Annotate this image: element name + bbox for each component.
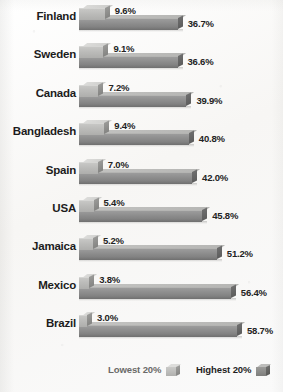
bar-lowest-20	[79, 238, 93, 250]
value-label-highest: 39.9%	[196, 95, 222, 106]
country-label: Canada	[0, 87, 76, 100]
bar-highest-side-face	[231, 284, 236, 297]
bar-highest-side-face	[237, 323, 242, 336]
bar-lowest-20	[79, 200, 94, 212]
country-label: Brazil	[0, 317, 76, 330]
bar-lowest-20	[79, 162, 98, 174]
bar-highest-side-face	[178, 54, 183, 67]
country-label: Spain	[0, 164, 76, 177]
value-label-lowest: 9.4%	[114, 120, 135, 131]
chart-row: Finland9.6%36.7%	[0, 1, 283, 39]
value-label-lowest: 9.1%	[113, 43, 134, 54]
country-label: Jamaica	[0, 240, 76, 253]
bar-lowest-20	[79, 46, 103, 58]
bar-lowest-20	[79, 315, 87, 327]
bar-highest-20	[79, 325, 237, 337]
income-share-bar-chart: Finland9.6%36.7%Sweden9.1%36.6%Canada7.2…	[0, 0, 283, 392]
chart-row: Mexico3.8%56.4%	[0, 270, 283, 308]
chart-row: Bangladesh9.4%40.8%	[0, 116, 283, 154]
value-label-lowest: 7.0%	[108, 159, 129, 170]
value-label-highest: 36.6%	[188, 56, 214, 67]
value-label-lowest: 9.6%	[115, 5, 136, 16]
value-label-lowest: 7.2%	[108, 82, 129, 93]
bar-highest-side-face	[202, 208, 207, 221]
value-label-highest: 45.8%	[212, 210, 238, 221]
country-label: Bangladesh	[0, 125, 76, 138]
value-label-highest: 51.2%	[227, 248, 253, 259]
bar-highest-side-face	[217, 246, 222, 259]
value-label-lowest: 3.8%	[99, 274, 120, 285]
bar-highest-side-face	[192, 169, 197, 182]
bar-lowest-20	[79, 123, 104, 135]
bar-highest-side-face	[178, 16, 183, 29]
value-label-highest: 56.4%	[241, 287, 267, 298]
bar-highest-20	[79, 248, 217, 260]
bar-highest-side-face	[189, 131, 194, 144]
country-label: Finland	[0, 10, 76, 23]
bar-lowest-side-face	[98, 159, 103, 172]
chart-row: Sweden9.1%36.6%	[0, 39, 283, 77]
value-label-lowest: 5.2%	[103, 235, 124, 246]
bar-highest-side-face	[186, 92, 191, 105]
bar-lowest-side-face	[89, 274, 94, 287]
chart-row: USA5.4%45.8%	[0, 193, 283, 231]
bar-highest-20	[79, 210, 202, 222]
country-label: Mexico	[0, 279, 76, 292]
chart-row: Brazil3.0%58.7%	[0, 308, 283, 346]
chart-row: Canada7.2%39.9%	[0, 78, 283, 116]
value-label-highest: 40.8%	[199, 133, 225, 144]
bar-lowest-20	[79, 277, 89, 289]
bar-highest-20	[79, 287, 231, 299]
bar-lowest-side-face	[94, 198, 99, 211]
country-label: Sweden	[0, 48, 76, 61]
value-label-lowest: 3.0%	[97, 312, 118, 323]
bar-lowest-20	[79, 85, 98, 97]
value-label-highest: 36.7%	[188, 18, 214, 29]
value-label-highest: 42.0%	[202, 172, 228, 183]
value-label-highest: 58.7%	[247, 325, 273, 336]
bar-lowest-20	[79, 8, 105, 20]
bar-lowest-side-face	[105, 6, 110, 19]
chart-row: Spain7.0%42.0%	[0, 155, 283, 193]
chart-row: Jamaica5.2%51.2%	[0, 231, 283, 269]
value-label-lowest: 5.4%	[104, 197, 125, 208]
country-label: USA	[0, 202, 76, 215]
